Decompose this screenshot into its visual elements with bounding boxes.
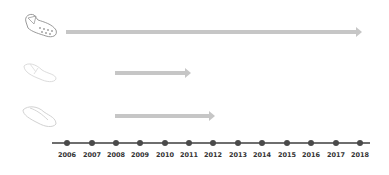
- sandal-shoe-icon: [20, 60, 60, 88]
- tick-2009: [137, 140, 143, 146]
- clog-shoe-icon: [22, 12, 60, 44]
- tick-2006: [64, 140, 70, 146]
- tick-2017: [333, 140, 339, 146]
- tick-2015: [284, 140, 290, 146]
- arrow-row-3: [115, 114, 209, 118]
- tick-2011: [186, 140, 192, 146]
- arrow-row-1: [66, 30, 356, 34]
- tick-2014: [259, 140, 265, 146]
- arrow-row-2: [115, 71, 185, 75]
- tick-2016: [308, 140, 314, 146]
- tick-2018: [357, 140, 363, 146]
- tick-2008: [113, 140, 119, 146]
- year-label: 2018: [345, 151, 375, 159]
- tick-2013: [235, 140, 241, 146]
- flip-flop-shoe-icon: [20, 104, 60, 134]
- tick-2007: [89, 140, 95, 146]
- tick-2010: [162, 140, 168, 146]
- tick-2012: [210, 140, 216, 146]
